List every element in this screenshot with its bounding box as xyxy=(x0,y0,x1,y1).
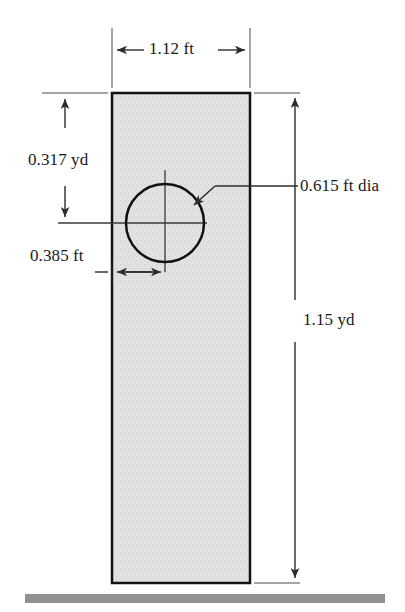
dimension-label-hole-diameter: 0.615 ft dia xyxy=(300,176,379,196)
ground-bar xyxy=(25,594,385,603)
dimension-label-hole-from-top: 0.317 yd xyxy=(28,150,88,170)
dimension-label-width: 1.12 ft xyxy=(149,39,194,59)
engineering-diagram xyxy=(0,0,405,612)
rectangular-plate xyxy=(112,93,250,583)
dimension-label-height: 1.15 yd xyxy=(303,310,355,330)
dimension-label-hole-from-left: 0.385 ft xyxy=(30,246,84,266)
figure-canvas: 1.12 ft 0.317 yd 0.615 ft dia 0.385 ft 1… xyxy=(0,0,405,612)
